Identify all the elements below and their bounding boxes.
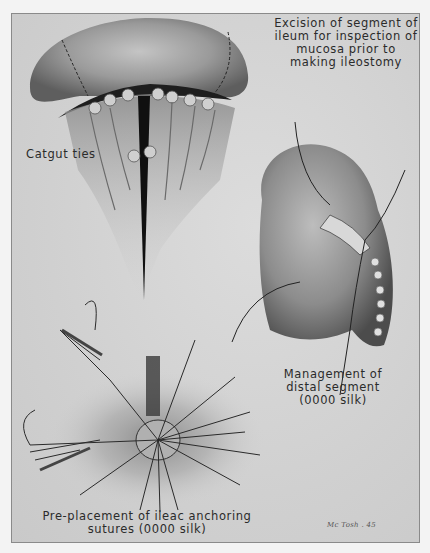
distal-segment-drawing — [232, 122, 405, 395]
label-excision: Excision of segment of ileum for inspect… — [272, 17, 420, 69]
label-line: making ileostomy — [272, 56, 420, 69]
artist-signature: Mc Tosh . 45 — [327, 521, 376, 529]
label-preplacement-sutures: Pre-placement of ileac anchoring sutures… — [22, 510, 272, 536]
label-catgut-ties: Catgut ties — [26, 148, 116, 161]
surgical-illustration — [0, 0, 430, 553]
label-distal-segment: Management of distal segment (0000 silk) — [268, 368, 398, 407]
ileostomy-sutures-drawing — [24, 301, 265, 512]
label-line: sutures (0000 silk) — [22, 523, 272, 536]
label-line: (0000 silk) — [268, 394, 398, 407]
